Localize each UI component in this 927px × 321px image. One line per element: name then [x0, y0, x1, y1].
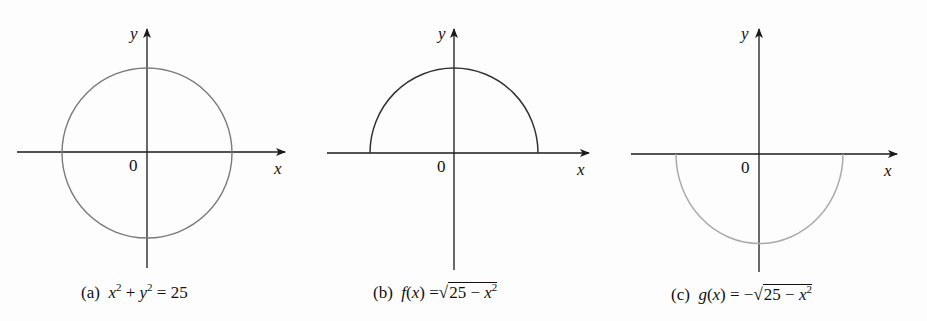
panel-c-caption: (c) g(x) = −√25 − x2	[671, 285, 812, 305]
panel-a-caption-prefix: (a)	[81, 283, 100, 302]
caption-exponent: 2	[806, 283, 812, 295]
caption-exponent: 2	[147, 281, 153, 293]
panel-c-x-label: x	[884, 161, 892, 181]
caption-radicand: 25 − x2	[763, 284, 812, 304]
caption-equals-25: = 25	[157, 283, 188, 302]
radicand-constant: 25 −	[764, 285, 799, 304]
panel-b-x-label: x	[577, 160, 585, 180]
caption-exponent: 2	[492, 281, 498, 293]
panel-b-y-label: y	[438, 24, 446, 44]
panel-a-graph	[17, 29, 285, 268]
caption-exponent: 2	[116, 281, 122, 293]
figure-canvas	[0, 0, 927, 321]
caption-equals: =	[429, 283, 439, 302]
panel-a-origin-label: 0	[129, 156, 138, 176]
caption-var-x: x	[713, 285, 721, 304]
caption-paren: )	[419, 283, 425, 302]
caption-var-x: x	[484, 283, 492, 302]
panel-c-y-label: y	[741, 24, 749, 44]
panel-b-origin-label: 0	[437, 157, 446, 177]
caption-paren: )	[720, 285, 726, 304]
panel-b-caption: (b) f(x) =√25 − x2	[373, 283, 497, 303]
caption-plus: +	[126, 283, 136, 302]
caption-var-y: y	[140, 283, 148, 302]
caption-func-g: g	[698, 285, 707, 304]
panel-c-caption-prefix: (c)	[671, 285, 690, 304]
caption-equals-negative: = −	[730, 285, 753, 304]
caption-var-x: x	[108, 283, 116, 302]
radicand-constant: 25 −	[449, 283, 484, 302]
panel-c-graph	[631, 29, 897, 272]
square-root-icon: √	[439, 283, 448, 302]
square-root-icon: √	[753, 285, 762, 304]
panel-b-caption-prefix: (b)	[373, 283, 393, 302]
panel-a-caption: (a) x2 + y2 = 25	[81, 283, 188, 303]
panel-a-y-label: y	[130, 24, 138, 44]
panel-c-origin-label: 0	[741, 158, 750, 178]
caption-radicand: 25 − x2	[448, 282, 497, 302]
panel-a-x-label: x	[274, 159, 282, 179]
panel-b-graph	[327, 29, 589, 270]
